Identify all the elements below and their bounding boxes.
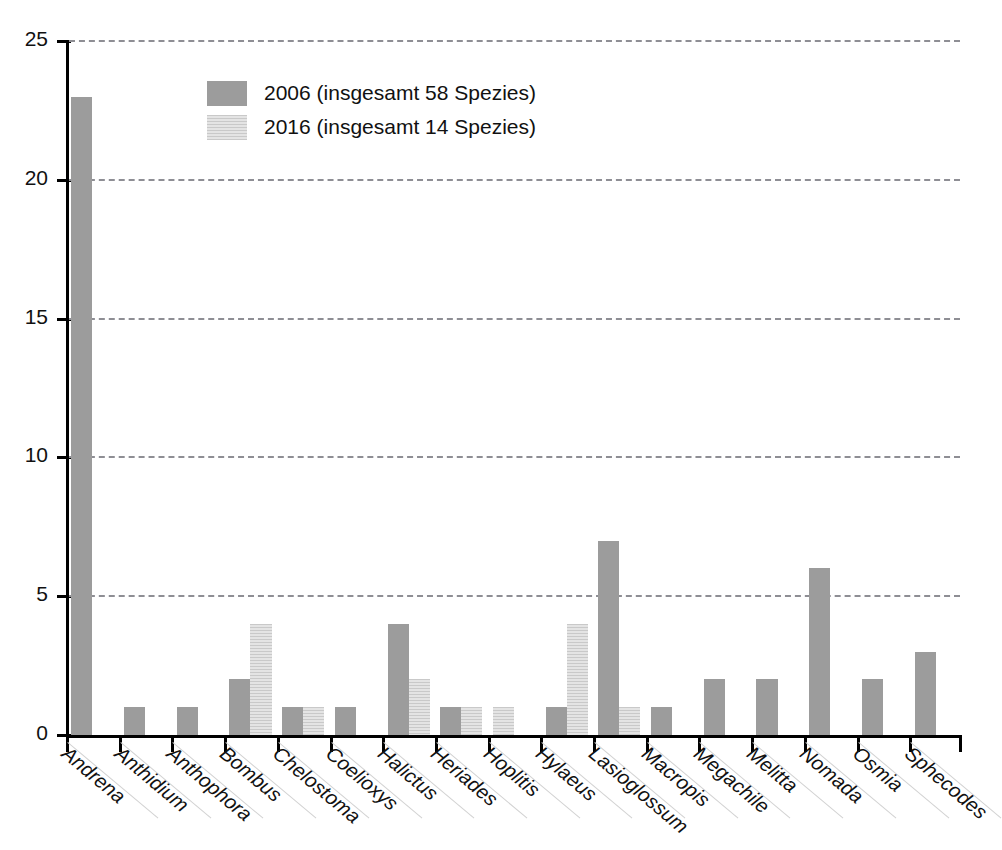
bar-2006-andrena — [71, 97, 92, 735]
y-tick-label-5: 5 — [0, 582, 48, 606]
bar-2006-macropis — [651, 707, 672, 735]
plot-area — [66, 41, 962, 735]
bar-2016-halictus — [409, 679, 430, 735]
bar-2006-heriades — [440, 707, 461, 735]
legend-item-2016: 2016 (insgesamt 14 Spezies) — [207, 110, 536, 144]
bar-2006-bombus — [229, 679, 250, 735]
legend-label-2016: 2016 (insgesamt 14 Spezies) — [264, 115, 536, 139]
cropped-text-fragment: .. — [85, 0, 117, 1]
bar-2016-chelostoma — [303, 707, 324, 735]
x-label-sphecodes: Sphecodes — [900, 742, 991, 824]
bar-2006-hylaeus — [546, 707, 567, 735]
bar-2016-hylaeus — [567, 624, 588, 735]
legend-label-2006: 2006 (insgesamt 58 Spezies) — [264, 81, 536, 105]
bar-2016-bombus — [250, 624, 271, 735]
chart-legend: 2006 (insgesamt 58 Spezies) 2016 (insges… — [207, 76, 536, 144]
legend-item-2006: 2006 (insgesamt 58 Spezies) — [207, 76, 536, 110]
legend-swatch-2016-icon — [207, 115, 247, 140]
bar-2006-halictus — [388, 624, 409, 735]
bar-2016-hoplitis — [493, 707, 514, 735]
bar-2006-megachile — [704, 679, 725, 735]
x-axis-end-tick — [959, 735, 962, 752]
bar-2016-lasioglossum — [619, 707, 640, 735]
y-tick-label-20: 20 — [0, 166, 48, 190]
bar-2006-melitta — [756, 679, 777, 735]
y-tick-label-25: 25 — [0, 27, 48, 51]
y-tick-label-10: 10 — [0, 443, 48, 467]
legend-swatch-2006-icon — [207, 81, 247, 106]
bar-2006-anthophora — [177, 707, 198, 735]
bar-2006-osmia — [862, 679, 883, 735]
bar-2006-chelostoma — [282, 707, 303, 735]
bar-2006-anthidium — [124, 707, 145, 735]
y-tick-label-15: 15 — [0, 305, 48, 329]
bar-2006-sphecodes — [915, 652, 936, 735]
bar-2006-nomada — [809, 568, 830, 735]
bar-2006-lasioglossum — [598, 541, 619, 735]
x-axis-line — [66, 735, 962, 738]
y-tick-label-0: 0 — [0, 721, 48, 745]
bar-2016-heriades — [461, 707, 482, 735]
bar-2006-coelioxys — [335, 707, 356, 735]
